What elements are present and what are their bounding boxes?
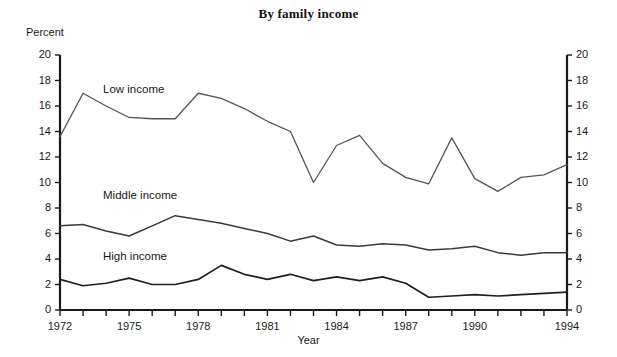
y-axis-tick-label-right: 14 [576,125,596,137]
y-axis-tick-label-right: 2 [576,278,596,290]
y-axis-tick-label-left: 8 [31,201,51,213]
y-axis-tick-label-right: 16 [576,99,596,111]
axes-group [55,55,572,316]
y-axis-tick-label-left: 14 [31,125,51,137]
y-axis-tick-label-left: 2 [31,278,51,290]
x-axis-tick-label: 1987 [386,320,426,332]
data-line-high-income [60,265,567,297]
x-axis-tick-label: 1978 [178,320,218,332]
y-axis-tick-label-left: 6 [31,227,51,239]
x-axis-tick-label: 1975 [109,320,149,332]
y-axis-tick-label-left: 18 [31,74,51,86]
y-axis-tick-label-right: 12 [576,150,596,162]
y-axis-tick-label-left: 10 [31,176,51,188]
y-axis-tick-label-left: 0 [31,303,51,315]
x-axis-tick-label: 1972 [40,320,80,332]
y-axis-tick-label-left: 12 [31,150,51,162]
plot-area [0,0,617,357]
x-axis-tick-label: 1990 [455,320,495,332]
y-axis-tick-label-right: 8 [576,201,596,213]
x-axis-tick-label: 1994 [547,320,587,332]
y-axis-tick-label-right: 20 [576,48,596,60]
y-axis-tick-label-right: 6 [576,227,596,239]
x-axis-tick-label: 1981 [247,320,287,332]
data-line-middle-income [60,216,567,256]
y-axis-tick-label-right: 0 [576,303,596,315]
y-axis-tick-label-left: 16 [31,99,51,111]
y-axis-tick-label-left: 20 [31,48,51,60]
x-axis-tick-label: 1984 [317,320,357,332]
y-axis-tick-label-left: 4 [31,252,51,264]
y-axis-tick-label-right: 4 [576,252,596,264]
data-lines-group [60,93,567,297]
y-axis-tick-label-right: 18 [576,74,596,86]
data-line-low-income [60,93,567,191]
chart-figure: By family income Percent Year Low income… [0,0,617,357]
y-axis-tick-label-right: 10 [576,176,596,188]
